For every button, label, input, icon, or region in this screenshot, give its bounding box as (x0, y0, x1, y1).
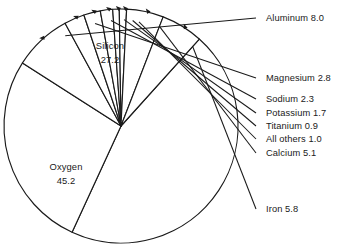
pie-callout-labels: Aluminum 8.0 Magnesium 2.8 Sodium 2.3 Po… (266, 13, 331, 214)
pie-label-silicon-name: Silicon (96, 40, 124, 51)
pie-callout-label-aluminum: Aluminum 8.0 (266, 13, 324, 23)
pie-label-oxygen-value: 45.2 (57, 175, 76, 186)
pie-callout-label-sodium: Sodium 2.3 (266, 94, 314, 104)
pie-callout-label-iron: Iron 5.8 (266, 204, 298, 214)
pie-callout-label-magnesium: Magnesium 2.8 (266, 73, 331, 83)
pie-callout-label-all-others: All others 1.0 (266, 134, 322, 144)
pie-label-silicon-value: 27.2 (101, 54, 120, 65)
pie-callout-label-calcium: Calcium 5.1 (266, 148, 316, 158)
pie-callout-label-potassium: Potassium 1.7 (266, 108, 326, 118)
pie-chart-figure: Oxygen 45.2 Silicon 27.2 Aluminum 8.0 Ma… (0, 0, 349, 251)
pie-callout-label-titanium: Titanium 0.9 (266, 121, 318, 131)
pie-chart-canvas: Oxygen 45.2 Silicon 27.2 Aluminum 8.0 Ma… (0, 0, 349, 251)
pie-label-oxygen-name: Oxygen (50, 161, 83, 172)
